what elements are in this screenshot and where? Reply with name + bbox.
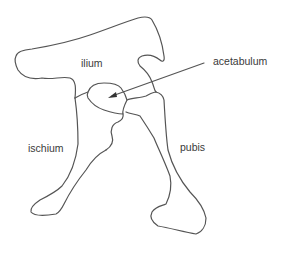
- acetabulum-pointer-line: [112, 63, 204, 96]
- pubis-outline: [126, 92, 206, 234]
- pelvis-drawing: [0, 0, 284, 253]
- ilium-pubis-suture: [127, 92, 156, 100]
- pelvis-diagram: ilium acetabulum ischium pubis: [0, 0, 284, 253]
- ilium-ischium-suture: [75, 92, 88, 98]
- ischium-outline: [31, 98, 106, 215]
- label-pubis: pubis: [180, 142, 205, 153]
- obturator-notch: [106, 114, 123, 150]
- label-ilium: ilium: [81, 58, 103, 69]
- acetabulum-socket: [87, 83, 127, 114]
- label-ischium: ischium: [28, 143, 64, 154]
- acetabulum-arrowhead-icon: [108, 92, 117, 98]
- label-acetabulum: acetabulum: [213, 56, 267, 67]
